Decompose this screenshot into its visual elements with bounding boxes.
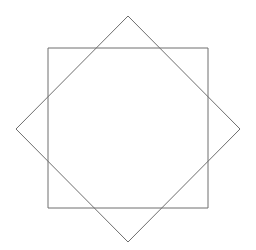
octagram-figure xyxy=(0,0,256,250)
figure-canvas xyxy=(0,0,256,250)
